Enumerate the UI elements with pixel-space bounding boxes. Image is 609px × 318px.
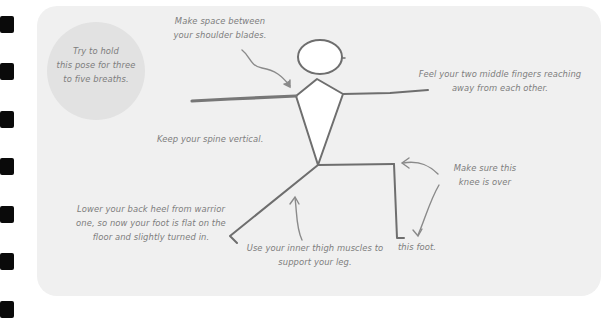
left-arm [192, 96, 296, 101]
head [298, 40, 342, 74]
annotation-shoulders: Make space between your shoulder blades. [155, 14, 285, 42]
annotation-back-heel: Lower your back heel from warrior one, s… [76, 202, 226, 244]
front-shin [394, 164, 404, 238]
annotation-knee: Make sure this knee is over [440, 161, 530, 189]
annotation-fingers: Feel your two middle fingers reaching aw… [410, 67, 590, 95]
foot-arrow [418, 185, 439, 235]
annotation-spine: Keep your spine vertical. [157, 132, 267, 146]
thigh-arrowhead [290, 197, 299, 204]
shoulder-arrow [242, 50, 290, 86]
annotation-foot: this foot. [392, 240, 442, 254]
back-leg [230, 165, 318, 243]
torso [296, 79, 343, 165]
annotation-thigh: Use your inner thigh muscles to support … [240, 241, 390, 269]
foot-arrowhead [413, 229, 422, 236]
front-thigh [318, 164, 394, 165]
